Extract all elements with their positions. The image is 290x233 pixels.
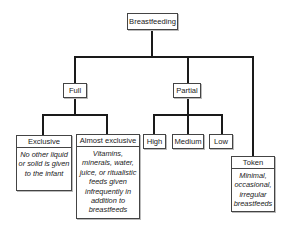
node-token: Token Minimal, occasional, irregular bre…	[231, 156, 275, 212]
breastfeeding-diagram: Breastfeeding Full Partial Exclusive No …	[0, 0, 290, 233]
connector-full-horizontal	[42, 114, 108, 116]
node-exclusive: Exclusive No other liquid or solid is gi…	[16, 135, 72, 191]
node-high: High	[143, 134, 166, 149]
connector-root-stem	[151, 29, 153, 58]
connector-top-horizontal	[74, 56, 254, 58]
connector-exclusive	[42, 114, 44, 135]
connector-full-up	[74, 56, 76, 83]
connector-partial-up	[187, 56, 189, 83]
node-partial-label: Partial	[174, 84, 200, 97]
node-medium-label: Medium	[173, 135, 203, 148]
node-low: Low	[209, 134, 233, 149]
connector-almost-exclusive	[106, 114, 108, 134]
node-partial: Partial	[173, 83, 201, 98]
node-breastfeeding-label: Breastfeeding	[128, 14, 177, 29]
node-exclusive-title: Exclusive	[17, 136, 71, 148]
node-full: Full	[63, 83, 87, 98]
node-exclusive-description: No other liquid or solid is given to the…	[17, 148, 71, 178]
node-breastfeeding: Breastfeeding	[127, 13, 178, 30]
node-token-title: Token	[232, 157, 274, 169]
connector-high	[153, 114, 155, 134]
node-high-label: High	[144, 135, 165, 148]
node-almost-exclusive-title: Almost exclusive	[77, 135, 139, 147]
node-low-label: Low	[210, 135, 232, 148]
connector-low	[221, 114, 223, 134]
node-almost-exclusive-description: Vitamins, minerals, water, juice, or rit…	[77, 147, 139, 215]
connector-token-vertical	[252, 56, 254, 156]
node-almost-exclusive: Almost exclusive Vitamins, minerals, wat…	[76, 134, 140, 219]
node-medium: Medium	[172, 134, 204, 149]
node-token-description: Minimal, occasional, irregular breastfee…	[232, 169, 274, 209]
node-full-label: Full	[64, 84, 86, 97]
connector-medium	[187, 114, 189, 134]
